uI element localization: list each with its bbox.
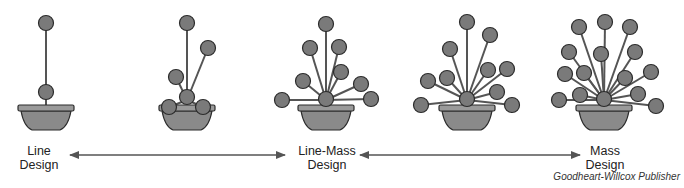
flower-icon — [303, 41, 318, 56]
label-line-mass-design: Line-Mass Design — [292, 144, 362, 172]
bowl-rim — [18, 105, 74, 111]
flower-icon — [631, 87, 646, 102]
flower-icon — [481, 63, 496, 78]
flower-icon — [597, 92, 612, 107]
flower-icon — [414, 98, 429, 113]
flower-icon — [196, 100, 211, 115]
flower-icon — [618, 71, 633, 86]
flower-icon — [594, 47, 609, 62]
flower-icon — [500, 62, 515, 77]
flower-icon — [443, 42, 458, 57]
publisher-credit: Goodheart-Willcox Publisher — [553, 171, 680, 182]
bowl-icon — [579, 111, 629, 130]
flower-icon — [440, 71, 455, 86]
label-design: Design — [580, 158, 630, 172]
label-line-design: Line Design — [14, 144, 64, 172]
flower-icon — [598, 15, 613, 30]
label-line-mass: Line-Mass — [292, 144, 362, 158]
flower-icon — [421, 74, 436, 89]
stem — [604, 27, 630, 100]
flower-icon — [460, 15, 475, 30]
flower-icon — [201, 41, 216, 56]
label-design: Design — [14, 158, 64, 172]
flower-icon — [483, 28, 498, 43]
arrangement-line-mass — [275, 17, 379, 131]
flower-icon — [577, 66, 592, 81]
flower-icon — [180, 16, 195, 31]
label-mass: Mass — [580, 144, 630, 158]
flower-icon — [296, 74, 311, 89]
bowl-icon — [301, 111, 351, 130]
flower-icon — [460, 92, 475, 107]
arrangement-mass — [552, 15, 664, 131]
flower-icon — [505, 98, 520, 113]
arrangement-line-mid — [159, 16, 216, 131]
flower-icon — [39, 16, 54, 31]
flower-icon — [558, 67, 573, 82]
arrangement-mass-mid — [414, 15, 520, 131]
flower-icon — [490, 85, 505, 100]
flower-icon — [623, 20, 638, 35]
arrangement-line — [18, 16, 74, 131]
flower-icon — [319, 92, 334, 107]
flower-icon — [644, 65, 659, 80]
flower-icon — [275, 93, 290, 108]
flower-icon — [39, 85, 54, 100]
flower-icon — [169, 70, 184, 85]
flower-icon — [573, 88, 588, 103]
flower-icon — [180, 90, 195, 105]
bowl-icon — [21, 111, 71, 130]
flower-icon — [354, 77, 369, 92]
label-mass-design: Mass Design — [580, 144, 630, 172]
bowl-icon — [442, 111, 492, 130]
flower-icon — [319, 17, 334, 32]
flower-icon — [572, 20, 587, 35]
label-design: Design — [292, 158, 362, 172]
flower-icon — [552, 93, 567, 108]
flower-icon — [364, 92, 379, 107]
flower-icon — [628, 45, 643, 60]
flower-icon — [334, 65, 349, 80]
flower-icon — [562, 45, 577, 60]
label-line: Line — [14, 144, 64, 158]
flower-icon — [332, 40, 347, 55]
flower-icon — [649, 99, 664, 114]
flower-icon — [162, 100, 177, 115]
